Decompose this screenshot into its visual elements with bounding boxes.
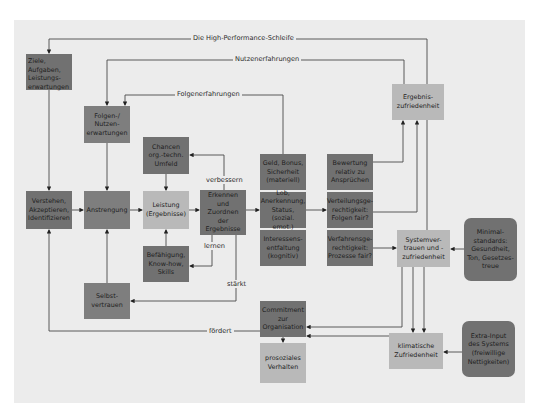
box-verstehen: Verstehen, Akzeptieren, Identifizieren [26, 191, 72, 229]
box-lob: Lob, Anerkennung, Status, (sozial. emot.… [260, 192, 306, 228]
box-verfahren: Verfahrensge-rechtigkeit: Prozesse fair? [327, 230, 373, 266]
box-verteilung: Verteilungsge-rechtigkeit: Folgen fair? [327, 192, 373, 228]
label-staerkt: stärkt [225, 280, 248, 288]
label-lernen: lernen [202, 242, 227, 250]
box-commitment: Commitment zur Organisation [260, 301, 306, 337]
box-geld: Geld, Bonus, Sicherheit (materiell) [260, 154, 306, 190]
box-folgen-nutzenerwartungen: Folgen-/ Nutzen-erwartungen [84, 106, 130, 143]
box-interessen: Interessens-entfaltung (kognitiv) [260, 230, 306, 266]
label-folgenerfahrungen: Folgenerfahrungen [175, 90, 242, 98]
box-minimalstandards: Minimal-standards: Gesundheit, Ton, Gese… [464, 218, 517, 281]
box-erkennen: Erkennen und Zuordnen der Ergebnisse [200, 190, 246, 235]
box-ziele: Ziele, Aufgaben, Leistungs-erwartungen [26, 54, 72, 90]
box-anstrengung: Anstrengung [84, 191, 130, 229]
label-verbessern: verbessern [204, 176, 245, 184]
loop-title: Die High-Performance-Schleife [191, 34, 296, 42]
box-selbstvertrauen: Selbst-vertrauen [84, 283, 130, 319]
box-extra-input: Extra-Input des Systems (freiwillige Net… [462, 321, 515, 377]
box-leistung: Leistung (Ergebnisse) [143, 191, 189, 229]
label-nutzenerfahrungen: Nutzenerfahrungen [233, 55, 301, 63]
box-chancen: Chancen org.-techn. Umfeld [143, 137, 189, 174]
box-klimatische-zufriedenheit: klimatische Zufriedenheit [389, 333, 443, 369]
box-ergebniszufriedenheit: Ergebnis-zufriedenheit [392, 84, 444, 120]
box-systemvertrauen: Systemver-trauen und -zufriedenheit [397, 230, 450, 267]
box-befaehigung: Befähigung, Know-how, Skills [143, 246, 189, 282]
label-foerdert: fördert [207, 327, 234, 335]
box-bewertung: Bewertung relativ zu Ansprüchen [327, 154, 373, 190]
box-prosoziales-verhalten: prosoziales Verhalten [260, 343, 306, 383]
